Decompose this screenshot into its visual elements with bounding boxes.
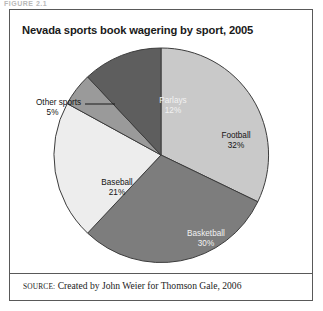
pie-label-football-percent: 32% [206, 141, 266, 151]
pie-label-parlays-percent: 12% [145, 106, 201, 116]
pie-label-other-sports: Other sports 5% [36, 98, 81, 118]
pie-label-basketball-name: Basketball [187, 229, 225, 238]
pie-label-baseball-name: Baseball [101, 178, 132, 187]
source-text: Created by John Weier for Thomson Gale, … [58, 280, 242, 291]
figure-number-label: FIGURE 2.1 [4, 0, 47, 7]
pie-chart-svg [10, 38, 312, 272]
source-note: SOURCE: Created by John Weier for Thomso… [23, 280, 241, 291]
page-title: Nevada sports book wagering by sport, 20… [22, 24, 253, 36]
pie-label-baseball-percent: 21% [86, 188, 148, 198]
figure-panel: Nevada sports book wagering by sport, 20… [9, 9, 313, 301]
source-label: SOURCE: [23, 282, 55, 291]
pie-label-baseball: Baseball 21% [86, 178, 148, 198]
pie-label-other-sports-name: Other sports [36, 98, 81, 107]
pie-label-basketball-percent: 30% [170, 239, 242, 249]
pie-label-football-name: Football [221, 131, 250, 140]
pie-label-football: Football 32% [206, 131, 266, 151]
source-divider [10, 273, 312, 274]
pie-chart: Football 32% Basketball 30% Baseball 21%… [10, 38, 312, 272]
pie-label-other-sports-percent: 5% [36, 108, 81, 118]
pie-label-basketball: Basketball 30% [170, 229, 242, 249]
pie-label-parlays-name: Parlays [159, 96, 186, 105]
pie-label-parlays: Parlays 12% [145, 96, 201, 116]
